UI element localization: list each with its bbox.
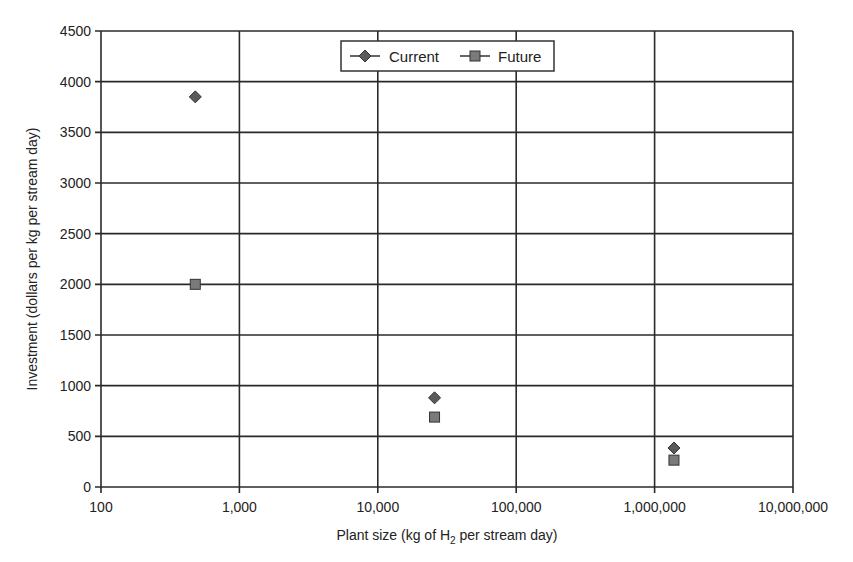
x-tick-label: 100 — [89, 499, 113, 515]
x-tick-label: 100,000 — [491, 499, 542, 515]
future-point-square-icon — [430, 412, 440, 422]
scatter-chart: 050010001500200025003000350040004500 100… — [0, 0, 853, 562]
square-marker-icon — [470, 51, 480, 61]
y-tick-label: 4500 — [60, 23, 91, 39]
y-tick-label: 2000 — [60, 276, 91, 292]
current-point-diamond-icon — [189, 91, 201, 103]
x-tick-label: 10,000,000 — [758, 499, 828, 515]
x-tick-label: 1,000 — [222, 499, 257, 515]
legend: Current Future — [341, 41, 554, 71]
y-tick-label: 3500 — [60, 124, 91, 140]
x-axis-ticks: 1001,00010,000100,0001,000,00010,000,000 — [89, 499, 828, 515]
y-tick-label: 4000 — [60, 74, 91, 90]
x-tick-label: 1,000,000 — [623, 499, 685, 515]
y-tick-label: 500 — [68, 428, 92, 444]
x-axis-title: Plant size (kg of H2 per stream day) — [336, 527, 557, 546]
y-tick-label: 0 — [83, 479, 91, 495]
y-tick-label: 1500 — [60, 327, 91, 343]
y-tick-label: 1000 — [60, 378, 91, 394]
data-points — [189, 91, 680, 465]
future-point-square-icon — [669, 455, 679, 465]
future-point-square-icon — [190, 279, 200, 289]
grid-lines — [95, 31, 793, 493]
legend-label-current: Current — [389, 48, 440, 65]
y-tick-label: 2500 — [60, 226, 91, 242]
x-tick-label: 10,000 — [356, 499, 399, 515]
legend-label-future: Future — [498, 48, 541, 65]
y-axis-title: Investment (dollars per kg per stream da… — [24, 128, 40, 391]
y-axis-ticks: 050010001500200025003000350040004500 — [60, 23, 91, 495]
current-point-diamond-icon — [429, 392, 441, 404]
current-point-diamond-icon — [668, 442, 680, 454]
y-tick-label: 3000 — [60, 175, 91, 191]
